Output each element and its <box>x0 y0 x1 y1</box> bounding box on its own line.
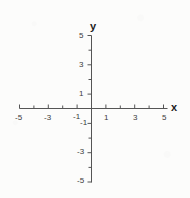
x-tick-label-pos1: 1 <box>104 114 108 122</box>
coordinate-plane-chart: -5 -3 -1 1 3 5 5 3 1 -1 -3 -5 y x <box>0 0 190 198</box>
y-tick-label-neg5: -5 <box>77 177 84 185</box>
y-tick-label-pos3: 3 <box>79 61 83 69</box>
y-tick-label-neg1: -1 <box>80 119 87 127</box>
x-tick-label-neg3: -3 <box>44 114 51 122</box>
y-tick-label-neg3: -3 <box>77 148 84 156</box>
x-tick-label-neg5: -5 <box>15 114 22 122</box>
y-axis-name: y <box>90 21 96 32</box>
y-tick-label-pos5: 5 <box>79 32 83 40</box>
y-tick-label-pos1: 1 <box>79 90 83 98</box>
x-axis-name: x <box>171 102 177 113</box>
x-tick-label-pos5: 5 <box>162 114 166 122</box>
x-tick-label-pos3: 3 <box>133 114 137 122</box>
